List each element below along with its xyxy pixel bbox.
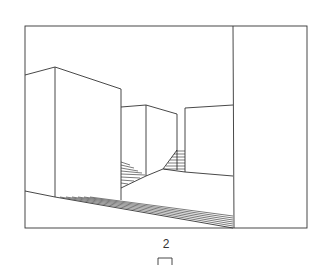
stairs-right: [164, 151, 185, 169]
middle-building: [121, 105, 177, 170]
figure-label: 2: [158, 237, 174, 251]
stairs-left: [121, 162, 145, 184]
right-building-edge: [233, 26, 234, 228]
label-bracket: [158, 258, 172, 265]
stairs-bottom: [60, 197, 233, 226]
inner-right-building: [185, 105, 233, 172]
left-building: [25, 67, 121, 200]
frame: [25, 26, 307, 228]
perspective-drawing: [0, 0, 319, 265]
